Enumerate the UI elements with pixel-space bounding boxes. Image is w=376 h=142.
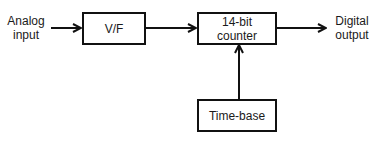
analog-input-label: Analog input xyxy=(4,14,48,42)
digital-output-line1: Digital xyxy=(330,14,374,28)
digital-output-label: Digital output xyxy=(330,14,374,42)
counter-block-line1: 14-bit xyxy=(222,15,252,29)
vf-block-label: V/F xyxy=(105,22,124,36)
counter-block-line2: counter xyxy=(217,29,257,43)
counter-block: 14-bit counter xyxy=(197,12,277,45)
timebase-block-label: Time-base xyxy=(209,109,265,123)
connector-layer xyxy=(0,0,376,142)
vf-block: V/F xyxy=(82,12,146,45)
digital-output-line2: output xyxy=(330,28,374,42)
analog-input-line1: Analog xyxy=(4,14,48,28)
timebase-block: Time-base xyxy=(197,99,277,132)
analog-input-line2: input xyxy=(4,28,48,42)
